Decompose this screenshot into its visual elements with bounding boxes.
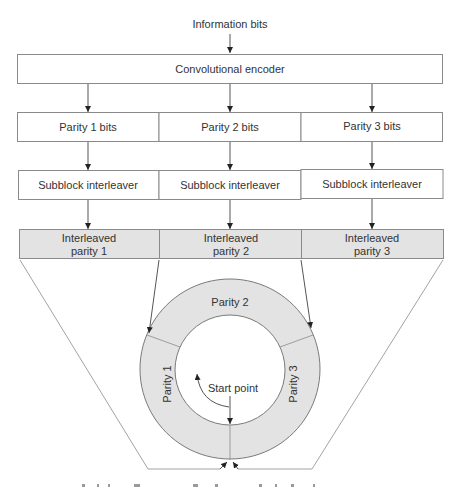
interleaved-parity2-line2: parity 2 [213, 245, 249, 257]
ring-segment-parity3-label: Parity 3 [287, 365, 299, 402]
convolutional-encoder-box: Convolutional encoder [18, 55, 443, 84]
parity-bits-row: Parity 1 bits Parity 2 bits Parity 3 bit… [18, 113, 443, 142]
parity1-bits-label: Parity 1 bits [59, 121, 117, 133]
parity2-bits-label: Parity 2 bits [201, 121, 259, 133]
interleaved-parity-row: Interleaved parity 1 Interleaved parity … [20, 230, 444, 259]
interleaver1-label: Subblock interleaver [38, 179, 138, 191]
interleaver2-label: Subblock interleaver [180, 179, 280, 191]
ring-segment-parity1-label: Parity 1 [161, 365, 173, 402]
interleaved-parity3-line2: parity 3 [354, 245, 390, 257]
interleaved-parity2-line1: Interleaved [204, 232, 258, 244]
left-funnel-arrow [220, 462, 227, 469]
information-bits-label: Information bits [192, 18, 268, 30]
start-point-label: Start point [208, 382, 258, 394]
interleaver3-label: Subblock interleaver [322, 178, 422, 190]
encoder-label: Convolutional encoder [175, 63, 285, 75]
interleaved-parity3-line1: Interleaved [345, 232, 399, 244]
parity3-bits-label: Parity 3 bits [343, 120, 401, 132]
right-funnel-arrow [233, 462, 238, 469]
subblock-interleaver-row: Subblock interleaver Subblock interleave… [19, 170, 444, 200]
ring-segment-parity2-label: Parity 2 [211, 296, 248, 308]
circular-buffer-diagram: Information bits Convolutional encoder P… [0, 0, 465, 487]
interleaved-parity1-line1: Interleaved [62, 232, 116, 244]
interleaved-parity1-line2: parity 1 [71, 245, 107, 257]
circular-buffer-ring: Parity 2 Parity 1 Parity 3 [140, 279, 320, 460]
